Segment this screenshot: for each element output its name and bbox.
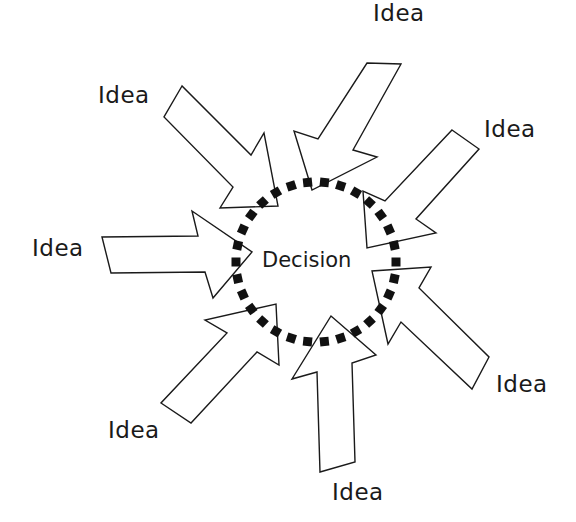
ring-dot: [232, 258, 241, 267]
ring-dot: [389, 240, 400, 251]
idea-label-top-left: Idea: [98, 84, 150, 107]
ring-dot: [286, 180, 297, 191]
ring-dot: [392, 258, 401, 267]
arrow-top-right: [363, 130, 479, 248]
ring-dot: [319, 177, 329, 187]
ring-dot: [350, 187, 362, 199]
idea-label-top-right: Idea: [484, 118, 536, 141]
idea-label-bottom: Idea: [332, 481, 384, 504]
ring-dot: [237, 224, 249, 236]
arrow-top-left: [164, 86, 278, 208]
ring-dot: [335, 180, 346, 191]
idea-label-left: Idea: [32, 237, 84, 260]
idea-label-bottom-left: Idea: [108, 419, 160, 442]
decision-label: Decision: [262, 250, 351, 271]
arrow-left: [102, 211, 252, 298]
ring-dot: [237, 289, 249, 301]
ring-dot: [319, 337, 329, 347]
idea-label-bottom-right: Idea: [496, 373, 548, 396]
ring-dot: [303, 337, 313, 347]
arrow-bottom-right: [372, 267, 489, 389]
ring-dot: [389, 273, 400, 284]
idea-label-top: Idea: [373, 2, 425, 25]
ring-dot: [303, 177, 313, 187]
arrow-top: [294, 63, 401, 190]
ring-dot: [232, 273, 243, 284]
ring-dot: [363, 315, 376, 328]
ring-dot: [232, 240, 243, 251]
ring-dot: [245, 209, 258, 222]
ring-dot: [286, 332, 297, 343]
